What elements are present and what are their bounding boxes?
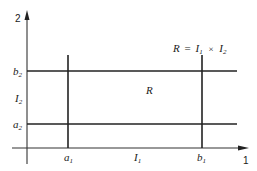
tick-b1: b1	[197, 151, 206, 165]
interval-I1: I1	[133, 151, 141, 165]
interval-I2: I2	[14, 92, 23, 106]
tick-a2: a2	[13, 118, 23, 132]
y-axis-label: 2	[15, 13, 21, 24]
x-axis-arrow-icon	[238, 146, 249, 151]
rectangle-product-diagram: 2 1 b2 I2 a2 a1 I1 b1 R R = I1 × I2	[0, 0, 257, 171]
x-axis-label: 1	[243, 155, 249, 166]
tick-a1: a1	[64, 151, 73, 165]
formula-label: R = I1 × I2	[172, 42, 227, 56]
region-label: R	[145, 84, 153, 96]
y-axis-arrow-icon	[25, 10, 30, 20]
tick-b2: b2	[13, 65, 23, 79]
